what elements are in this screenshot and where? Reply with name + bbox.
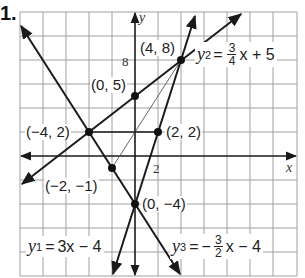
point-label-4-8: (4, 8) bbox=[139, 40, 176, 56]
point-4-8 bbox=[177, 56, 185, 64]
point-label-neg2-neg1: (−2, −1) bbox=[44, 178, 99, 194]
equation-y1: y1 = 3x − 4 bbox=[26, 236, 104, 257]
y-axis-label: y bbox=[139, 10, 145, 26]
x-axis-label: x bbox=[286, 160, 292, 176]
point-label-0-neg4: (0, −4) bbox=[141, 196, 187, 212]
equation-y2: y2 = 34 x + 5 bbox=[195, 42, 277, 67]
equation-y3: y3 = − 32 x − 4 bbox=[170, 234, 263, 259]
y-tick-label: 8 bbox=[122, 54, 129, 70]
x-tick-label: 2 bbox=[153, 161, 160, 177]
point-2-2 bbox=[154, 128, 162, 136]
point-0-5 bbox=[131, 92, 139, 100]
point-label-2-2: (2, 2) bbox=[165, 124, 202, 140]
line-y2 bbox=[22, 14, 241, 184]
point-label-neg4-2: (−4, 2) bbox=[25, 124, 71, 140]
point-neg2-neg1 bbox=[108, 164, 116, 172]
problem-number: 1. bbox=[0, 2, 17, 25]
point-neg4-2 bbox=[85, 128, 93, 136]
point-label-0-5: (0, 5) bbox=[90, 77, 127, 93]
point-0-neg4 bbox=[131, 200, 139, 208]
